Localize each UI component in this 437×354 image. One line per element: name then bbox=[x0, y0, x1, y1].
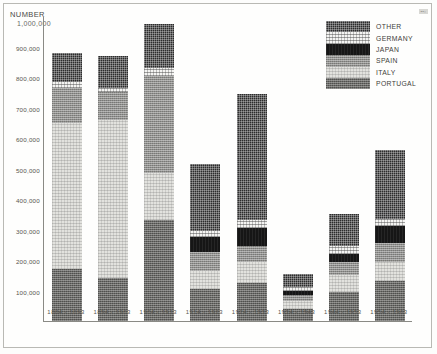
legend-item-portugal[interactable]: PORTUGAL bbox=[326, 78, 416, 89]
bar-segment-spain[interactable] bbox=[98, 92, 128, 119]
bar-segment-spain[interactable] bbox=[190, 252, 220, 270]
bar-segment-portugal[interactable] bbox=[375, 281, 405, 321]
stacked-bar[interactable] bbox=[329, 214, 359, 321]
x-axis-tick-label: 1954 - 1963 bbox=[361, 309, 417, 315]
y-axis-tick-label: 900,000 bbox=[16, 44, 40, 51]
legend-label: GERMANY bbox=[376, 35, 413, 42]
legend-label: JAPAN bbox=[376, 46, 399, 53]
bar-segment-italy[interactable] bbox=[375, 262, 405, 282]
bar-segment-italy[interactable] bbox=[329, 275, 359, 292]
y-axis-tick-label: 300,000 bbox=[16, 227, 40, 234]
bar-segment-spain[interactable] bbox=[237, 246, 267, 261]
bar-segment-spain[interactable] bbox=[329, 262, 359, 276]
stacked-bar[interactable] bbox=[190, 164, 220, 321]
legend-label: OTHER bbox=[376, 23, 402, 30]
chart-figure: NUMBER 1,000,000 ▪▪▫ 900,000800,000700,0… bbox=[0, 0, 437, 354]
bar-segment-spain[interactable] bbox=[375, 243, 405, 261]
bar-segment-italy[interactable] bbox=[52, 123, 82, 269]
legend-swatch-italy bbox=[326, 67, 370, 78]
legend-item-italy[interactable]: ITALY bbox=[326, 67, 416, 78]
legend-swatch-portugal bbox=[326, 78, 370, 89]
bar-segment-japan[interactable] bbox=[375, 226, 405, 243]
corner-registration-mark: ▪▪▫ bbox=[419, 9, 428, 14]
bar-segment-germany[interactable] bbox=[329, 246, 359, 254]
bar-segment-other[interactable] bbox=[283, 274, 313, 288]
stacked-bar[interactable] bbox=[375, 150, 405, 321]
legend-item-other[interactable]: OTHER bbox=[326, 21, 416, 32]
y-axis-tick-label: 100,000 bbox=[16, 288, 40, 295]
y-axis-tick-label: 800,000 bbox=[16, 75, 40, 82]
y-axis-tick-label: 200,000 bbox=[16, 258, 40, 265]
bar-segment-spain[interactable] bbox=[144, 76, 174, 174]
bar-segment-portugal[interactable] bbox=[329, 292, 359, 321]
bar-segment-other[interactable] bbox=[52, 53, 82, 82]
legend-item-japan[interactable]: JAPAN bbox=[326, 44, 416, 55]
bar-segment-portugal[interactable] bbox=[237, 283, 267, 321]
bar-segment-germany[interactable] bbox=[237, 220, 267, 228]
legend-label: SPAIN bbox=[376, 57, 398, 64]
legend-swatch-spain bbox=[326, 55, 370, 66]
bar-segment-portugal[interactable] bbox=[144, 220, 174, 321]
bar-segment-other[interactable] bbox=[329, 214, 359, 246]
bar-segment-other[interactable] bbox=[190, 164, 220, 231]
y-axis-tick-label: 400,000 bbox=[16, 197, 40, 204]
bar-segment-japan[interactable] bbox=[190, 237, 220, 252]
bar-segment-italy[interactable] bbox=[144, 173, 174, 220]
y-axis-tick-label: 600,000 bbox=[16, 136, 40, 143]
y-axis-title: NUMBER bbox=[10, 10, 45, 19]
bar-segment-italy[interactable] bbox=[237, 262, 267, 283]
legend-item-germany[interactable]: GERMANY bbox=[326, 32, 416, 43]
y-axis-tick-label: 500,000 bbox=[16, 166, 40, 173]
bar-segment-japan[interactable] bbox=[237, 228, 267, 246]
legend-swatch-japan bbox=[326, 44, 370, 55]
bar-segment-italy[interactable] bbox=[190, 271, 220, 289]
bar-segment-spain[interactable] bbox=[52, 88, 82, 123]
bar-segment-germany[interactable] bbox=[375, 219, 405, 227]
stacked-bar[interactable] bbox=[52, 53, 82, 321]
chart-legend: OTHERGERMANYJAPANSPAINITALYPORTUGAL bbox=[326, 21, 416, 89]
bar-segment-germany[interactable] bbox=[144, 68, 174, 76]
stacked-bar[interactable] bbox=[98, 56, 128, 321]
bar-segment-other[interactable] bbox=[375, 150, 405, 219]
legend-item-spain[interactable]: SPAIN bbox=[326, 55, 416, 66]
bar-segment-italy[interactable] bbox=[98, 120, 128, 279]
stacked-bar[interactable] bbox=[144, 24, 174, 321]
bar-segment-japan[interactable] bbox=[329, 254, 359, 262]
legend-label: PORTUGAL bbox=[376, 80, 416, 87]
legend-swatch-germany bbox=[326, 32, 370, 43]
stacked-bar[interactable] bbox=[237, 94, 267, 321]
bar-segment-other[interactable] bbox=[98, 56, 128, 88]
legend-label: ITALY bbox=[376, 69, 396, 76]
y-axis-tick-label: 700,000 bbox=[16, 105, 40, 112]
bar-segment-other[interactable] bbox=[144, 24, 174, 68]
bar-segment-italy[interactable] bbox=[283, 301, 313, 309]
bar-segment-portugal[interactable] bbox=[190, 289, 220, 321]
legend-swatch-other bbox=[326, 21, 370, 32]
bar-segment-other[interactable] bbox=[237, 94, 267, 221]
